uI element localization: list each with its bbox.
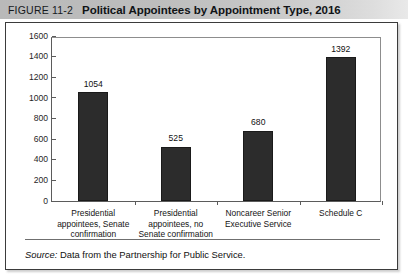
source-note: Source: Data from the Partnership for Pu…	[25, 249, 245, 260]
figure-header-band: FIGURE 11-2 Political Appointees by Appo…	[0, 0, 408, 19]
bar-group: 680Noncareer SeniorExecutive Service	[217, 38, 300, 201]
bar-value-label: 525	[169, 134, 183, 143]
x-axis-category-line: Senate confirmation	[129, 229, 224, 240]
source-text: Data from the Partnership for Public Ser…	[60, 249, 246, 260]
bar-group: 1392Schedule C	[300, 38, 383, 201]
bar-value-label: 1054	[84, 80, 103, 89]
x-axis-tick-mark	[382, 201, 383, 205]
bar-group: 1054Presidentialappointees, Senateconfir…	[52, 38, 135, 201]
source-label: Source:	[25, 249, 57, 260]
x-axis-category-line: Presidential	[46, 208, 141, 219]
y-axis-tick-label: 0	[43, 196, 52, 205]
bar-value-label: 1392	[331, 45, 350, 54]
x-axis-category-label: Noncareer SeniorExecutive Service	[211, 208, 306, 229]
x-axis-category-line: appointees, no	[129, 219, 224, 230]
bars-layer: 1054Presidentialappointees, Senateconfir…	[52, 38, 380, 201]
plot-area: 02004006008001000120014001600 1054Presid…	[51, 37, 381, 202]
x-axis-category-label: Presidentialappointees, Senateconfirmati…	[46, 208, 141, 240]
x-axis-tick-mark	[300, 201, 301, 205]
figure-panel: 02004006008001000120014001600 1054Presid…	[5, 22, 398, 270]
y-axis-tick-label: 400	[34, 155, 52, 164]
bar-group: 525Presidentialappointees, noSenate conf…	[135, 38, 218, 201]
bar-chart: 02004006008001000120014001600 1054Presid…	[6, 23, 397, 239]
x-axis-tick-mark	[135, 201, 136, 205]
y-axis-tick-label: 1200	[29, 73, 52, 82]
y-axis-tick-mark	[52, 36, 56, 37]
y-axis-tick-label: 1400	[29, 52, 52, 61]
bar	[326, 57, 356, 201]
bar	[78, 92, 108, 201]
x-axis-category-line: Presidential	[129, 208, 224, 219]
y-axis-tick-label: 1000	[29, 93, 52, 102]
source-divider	[25, 239, 380, 240]
x-axis-category-line: Schedule C	[294, 208, 389, 219]
figure-container: FIGURE 11-2 Political Appointees by Appo…	[0, 0, 410, 276]
y-axis-tick-label: 600	[34, 135, 52, 144]
x-axis-category-line: Executive Service	[211, 219, 306, 230]
x-axis-category-line: appointees, Senate	[46, 219, 141, 230]
y-axis-tick-label: 200	[34, 176, 52, 185]
x-axis-category-line: confirmation	[46, 229, 141, 240]
y-axis-tick-label: 800	[34, 114, 52, 123]
x-axis-tick-mark	[217, 201, 218, 205]
x-axis-category-line: Noncareer Senior	[211, 208, 306, 219]
x-axis-category-label: Presidentialappointees, noSenate confirm…	[129, 208, 224, 240]
y-axis-tick-label: 1600	[29, 31, 52, 40]
figure-title: Political Appointees by Appointment Type…	[82, 4, 341, 16]
bar	[243, 131, 273, 201]
bar	[161, 147, 191, 201]
x-axis-category-label: Schedule C	[294, 208, 389, 219]
bar-value-label: 680	[251, 118, 265, 127]
figure-number: FIGURE 11-2	[8, 4, 73, 16]
